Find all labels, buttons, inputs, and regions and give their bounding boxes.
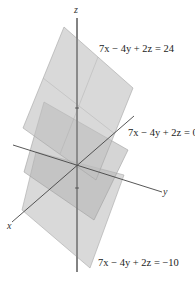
parallel-planes-figure: z y x 7x − 4y + 2z = 24 7x − 4y + 2z = 0…	[0, 0, 195, 282]
z-axis-label: z	[74, 4, 78, 15]
plane-top-label: 7x − 4y + 2z = 24	[99, 43, 174, 54]
x-axis-label: x	[7, 220, 11, 231]
plane-bottom-label: 7x − 4y + 2z = −10	[98, 257, 179, 268]
plane-middle-label: 7x − 4y + 2z = 0	[128, 127, 195, 138]
y-axis-label: y	[163, 186, 167, 197]
